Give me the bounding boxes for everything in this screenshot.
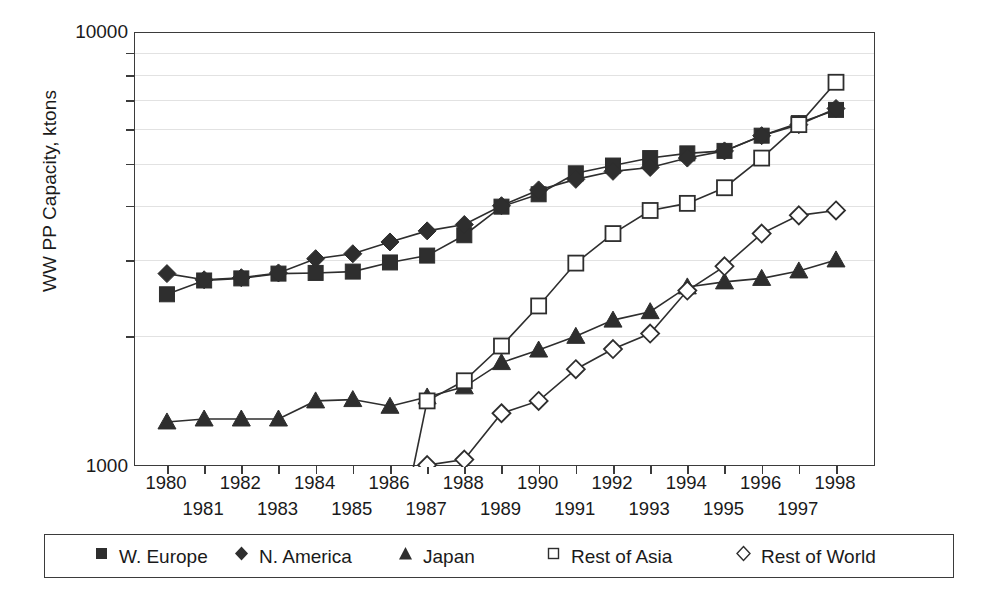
x-axis-label: 1994 <box>658 472 714 494</box>
y-axis-tick <box>126 75 135 77</box>
data-point-open-square <box>531 298 546 313</box>
x-axis-label: 1981 <box>175 498 231 520</box>
x-axis-label: 1996 <box>733 472 789 494</box>
data-point-filled-triangle <box>641 303 659 319</box>
data-point-filled-triangle <box>269 410 287 426</box>
legend-marker <box>735 545 752 567</box>
data-point-filled-triangle <box>195 410 213 426</box>
legend-item-rest-of-world[interactable]: Rest of World <box>735 545 876 567</box>
data-point-filled-square <box>159 287 174 302</box>
series-line <box>427 82 836 401</box>
x-axis-label: 1998 <box>807 472 863 494</box>
data-point-filled-triangle <box>827 251 845 267</box>
data-point-filled-triangle <box>567 327 585 343</box>
data-point-filled-square <box>382 255 397 270</box>
data-point-open-square <box>754 151 769 166</box>
data-point-open-square <box>717 180 732 195</box>
open-square-icon <box>545 545 562 562</box>
series-rest-of-world <box>405 201 845 507</box>
series-rest-of-asia <box>405 75 843 507</box>
filled-square-icon <box>93 545 110 562</box>
data-point-filled-triangle <box>344 391 362 407</box>
legend-item-japan[interactable]: Japan <box>397 545 475 567</box>
legend-item-w-europe[interactable]: W. Europe <box>93 545 208 567</box>
y-axis-labels: 10000 1000 <box>14 0 128 480</box>
x-axis-label: 1980 <box>138 472 194 494</box>
data-point-open-square <box>494 339 509 354</box>
y-axis-tick <box>126 129 135 131</box>
data-point-filled-diamond <box>158 265 176 283</box>
plot-area <box>134 32 875 466</box>
data-point-open-square <box>420 393 435 408</box>
legend-label: Rest of World <box>761 547 876 566</box>
data-point-open-diamond <box>827 201 845 219</box>
x-axis-labels: 1980198119821983198419851986198719881989… <box>134 472 875 528</box>
data-point-open-diamond <box>455 451 473 469</box>
legend-marker <box>93 545 110 567</box>
chart-legend: W. EuropeN. AmericaJapanRest of AsiaRest… <box>44 534 954 578</box>
y-axis-tick <box>126 260 135 262</box>
data-point-open-diamond <box>790 206 808 224</box>
x-axis-label: 1995 <box>695 498 751 520</box>
data-point-filled-diamond <box>418 222 436 240</box>
legend-marker <box>233 545 250 567</box>
x-axis-label: 1992 <box>584 472 640 494</box>
y-axis-tick <box>126 100 135 102</box>
series-line <box>427 210 836 465</box>
x-axis-label: 1991 <box>547 498 603 520</box>
filled-diamond-icon <box>233 545 250 562</box>
data-point-open-square <box>605 226 620 241</box>
y-axis-tick <box>126 53 135 55</box>
legend-marker <box>397 545 414 567</box>
x-axis-label: 1988 <box>435 472 491 494</box>
legend-marker <box>545 545 562 567</box>
legend-label: W. Europe <box>119 547 208 566</box>
data-point-filled-square <box>345 264 360 279</box>
y-axis-tick <box>126 336 135 338</box>
x-axis-label: 1982 <box>212 472 268 494</box>
data-point-filled-triangle <box>790 262 808 278</box>
data-point-filled-triangle <box>232 410 250 426</box>
data-point-open-square <box>568 256 583 271</box>
data-point-filled-square <box>420 248 435 263</box>
data-point-filled-triangle <box>530 341 548 357</box>
x-axis-label: 1987 <box>398 498 454 520</box>
data-point-filled-diamond <box>344 245 362 263</box>
series-line <box>167 108 836 279</box>
legend-label: N. America <box>259 547 352 566</box>
filled-triangle-icon <box>397 545 414 562</box>
x-axis-label: 1989 <box>472 498 528 520</box>
x-axis-label: 1985 <box>324 498 380 520</box>
series-n-america <box>158 99 845 288</box>
x-axis-label: 1993 <box>621 498 677 520</box>
y-axis-tick <box>126 164 135 166</box>
data-point-open-diamond <box>604 340 622 358</box>
y-axis-title: WW PP Capacity, ktons <box>39 0 61 391</box>
y-axis-max-label: 10000 <box>18 21 128 43</box>
x-axis-label: 1997 <box>770 498 826 520</box>
open-diamond-icon <box>735 545 752 562</box>
data-point-open-square <box>680 196 695 211</box>
chart-figure: 10000 1000 WW PP Capacity, ktons 1980198… <box>0 0 998 600</box>
x-axis-label: 1990 <box>510 472 566 494</box>
data-point-open-square <box>457 373 472 388</box>
y-axis-tick <box>126 206 135 208</box>
data-point-open-square <box>643 203 658 218</box>
y-axis-min-label: 1000 <box>18 455 128 477</box>
data-point-filled-triangle <box>492 354 510 370</box>
x-axis-label: 1986 <box>361 472 417 494</box>
data-point-open-square <box>829 75 844 90</box>
legend-label: Japan <box>423 547 475 566</box>
data-point-open-diamond <box>492 404 510 422</box>
legend-item-n-america[interactable]: N. America <box>233 545 352 567</box>
x-axis-label: 1983 <box>249 498 305 520</box>
legend-item-rest-of-asia[interactable]: Rest of Asia <box>545 545 672 567</box>
data-series-layer <box>135 33 876 467</box>
data-point-filled-diamond <box>381 233 399 251</box>
x-axis-label: 1984 <box>287 472 343 494</box>
legend-label: Rest of Asia <box>571 547 672 566</box>
data-point-open-square <box>791 117 806 132</box>
